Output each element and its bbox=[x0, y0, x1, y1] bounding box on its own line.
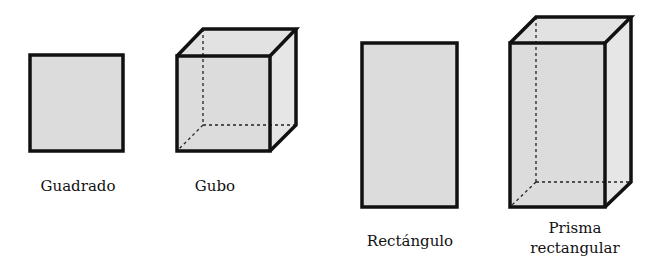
shapes-diagram: Guadrado Gubo Rectángulo Prisma rectangu… bbox=[0, 0, 663, 276]
rectangle-shape bbox=[362, 43, 457, 207]
square-label: Guadrado bbox=[30, 177, 126, 195]
cube-shape bbox=[177, 29, 296, 151]
rectangle-label: Rectángulo bbox=[360, 232, 460, 250]
square-shape bbox=[30, 55, 123, 151]
prism-label-line2: rectangular bbox=[520, 239, 630, 257]
prism-label-line1: Prisma bbox=[520, 219, 630, 237]
cube-label: Gubo bbox=[180, 177, 250, 195]
rectangular-prism-shape bbox=[510, 17, 631, 207]
